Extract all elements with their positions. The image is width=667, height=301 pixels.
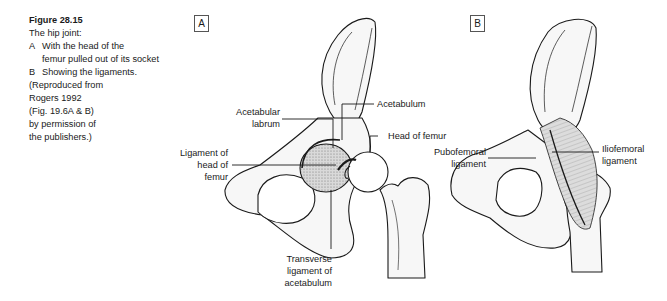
panel-a-drawing <box>225 18 430 278</box>
label-acetabular-labrum: Acetabular labrum <box>230 106 280 130</box>
label-head-of-femur: Head of femur <box>388 130 446 142</box>
label-pubofemoral-ligament: Pubofemoral ligament <box>426 146 486 170</box>
label-acetabulum: Acetabulum <box>377 98 426 110</box>
hip-joint-illustration <box>0 0 667 301</box>
panel-b-tag: B <box>470 15 485 32</box>
label-iliofemoral-ligament: Iliofemoral ligament <box>602 143 644 167</box>
panel-a-tag: A <box>194 15 209 32</box>
label-ligament-of-head-of-femur: Ligament of head of femur <box>178 147 228 183</box>
label-transverse-ligament: Transverse ligament of acetabulum <box>272 253 332 289</box>
